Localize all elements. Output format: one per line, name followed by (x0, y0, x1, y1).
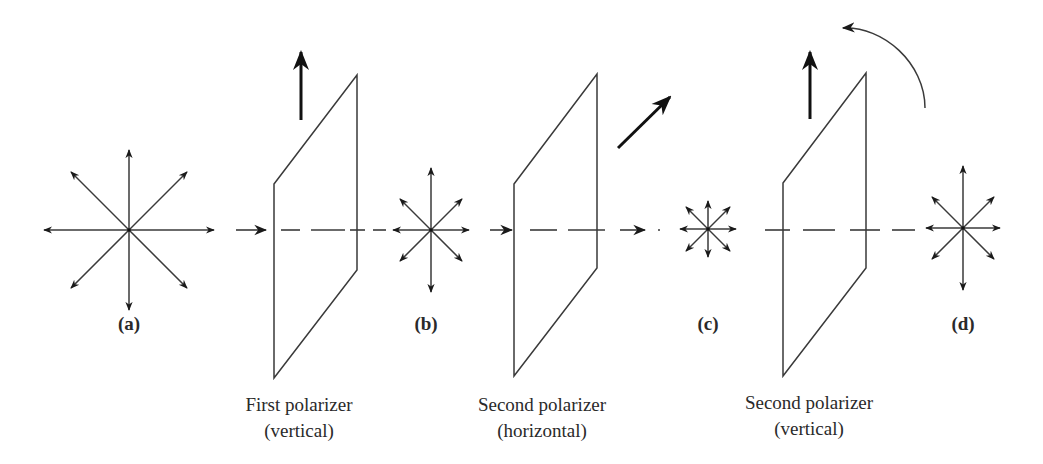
field-vector-arrow (963, 197, 994, 228)
field-vector-arrow (932, 228, 963, 259)
polarizer-first (274, 52, 357, 378)
rotation-arrow-icon (843, 28, 925, 108)
star-center (127, 228, 131, 232)
transmission-axis-arrow-icon (618, 97, 670, 148)
caption-second-polarizer-horizontal: Second polarizer (horizontal) (478, 392, 606, 444)
field-vector-arrow (686, 229, 708, 251)
caption-name: Second polarizer (745, 390, 873, 416)
star-center (706, 227, 710, 231)
field-vector-arrow (71, 172, 129, 230)
field-vector-arrow (129, 172, 187, 230)
field-vector-arrow (686, 207, 708, 229)
polarizer-sheet (783, 73, 866, 376)
caption-first-polarizer: First polarizer (vertical) (245, 392, 352, 444)
polarizer-sheet (514, 74, 597, 376)
stage-label-d: (d) (951, 313, 974, 335)
polarizer-sheet (274, 75, 357, 378)
star-center (961, 226, 965, 230)
stage-label-a: (a) (118, 313, 140, 335)
field-vector-arrow (431, 230, 462, 261)
field-vector-arrow (400, 230, 431, 261)
rotation-arc (843, 28, 925, 108)
field-vector-arrow (708, 207, 730, 229)
caption-orientation: (horizontal) (478, 418, 606, 444)
polarizers-group (274, 52, 866, 378)
field-vector-arrow (71, 230, 129, 288)
star-center (429, 228, 433, 232)
polarization-star-d-icon (926, 166, 1000, 290)
stage-label-b: (b) (414, 313, 437, 335)
polarizer-second-horizontal (514, 74, 670, 376)
field-vector-arrow (129, 230, 187, 288)
caption-orientation: (vertical) (245, 418, 352, 444)
polarization-star-b-icon (393, 168, 469, 292)
field-vector-arrow (400, 199, 431, 230)
caption-second-polarizer-vertical: Second polarizer (vertical) (745, 390, 873, 442)
field-vector-arrow (708, 229, 730, 251)
field-vector-arrow (963, 228, 994, 259)
caption-name: First polarizer (245, 392, 352, 418)
stage-label-c: (c) (697, 313, 718, 335)
field-vector-arrow (431, 199, 462, 230)
polarization-star-c-icon (680, 201, 736, 257)
caption-orientation: (vertical) (745, 416, 873, 442)
polarizer-second-vertical (783, 52, 866, 376)
polarization-star-a-icon (44, 150, 214, 310)
caption-name: Second polarizer (478, 392, 606, 418)
field-vector-arrow (932, 197, 963, 228)
